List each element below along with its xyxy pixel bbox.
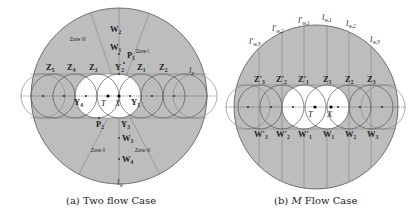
label-x: X bbox=[326, 109, 333, 119]
figure-canvas: Zone IV Zone I Zone II Zone III W2 W1 P1… bbox=[0, 0, 419, 219]
zone-iii-label: Zone III bbox=[135, 148, 150, 153]
caption-b: (b) M Flow Case bbox=[274, 195, 357, 206]
label-x: X bbox=[114, 98, 121, 108]
zone-ii-label: Zone II bbox=[91, 148, 105, 153]
label-l-w2: lw,2 bbox=[346, 18, 356, 29]
zone-iv-label: Zone IV bbox=[70, 37, 86, 42]
zone-i-label: Zone I bbox=[136, 49, 149, 54]
label-lprime-w1: l'w,1 bbox=[298, 15, 310, 26]
label-lprime-w3: l'w,3 bbox=[249, 36, 261, 47]
label-lprime-w2: l'w,2 bbox=[272, 23, 284, 34]
panel-a-two-flow: Zone IV Zone I Zone II Zone III W2 W1 P1… bbox=[21, 8, 217, 206]
panel-b-m-flow: l'w,3 l'w,2 l'w,1 lw,1 lw,2 lw,3 Z'3 Z'2… bbox=[226, 12, 406, 206]
label-l-w3: lw,3 bbox=[370, 34, 380, 45]
caption-a: (a) Two flow Case bbox=[66, 195, 156, 206]
label-l-w1: lw,1 bbox=[322, 12, 332, 23]
